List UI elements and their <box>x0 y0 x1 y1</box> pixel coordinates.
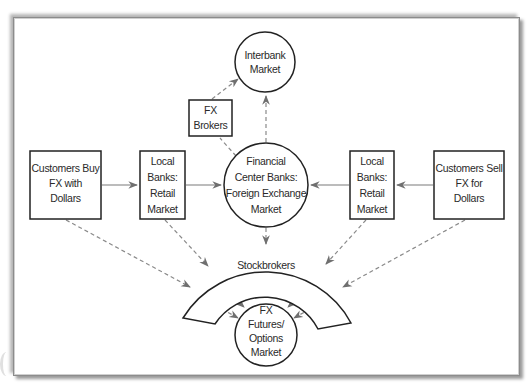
customers-buy-label-1: Customers Buy <box>32 162 101 174</box>
fx-brokers-label-1: FX <box>204 104 217 116</box>
local-banks-right-label-1: Local <box>360 155 384 167</box>
fx-brokers-label-2: Brokers <box>193 119 227 131</box>
customers-sell-label-1: Customers Sell <box>436 162 503 174</box>
arrow-customers-buy-to-stockbrokers <box>66 220 190 287</box>
local-banks-right-label-4: Market <box>357 203 388 215</box>
node-fx-brokers: FX Brokers <box>189 100 232 136</box>
interbank-label-1: Interbank <box>244 49 286 61</box>
financial-center-label-1: Financial <box>246 155 285 167</box>
fx-futures-label-3: Options <box>249 332 283 344</box>
arrow-local-banks-right-to-stockbrokers <box>326 220 366 264</box>
customers-sell-label-2: FX for <box>456 177 484 189</box>
financial-center-label-3: Foreign Exchange <box>226 187 307 199</box>
local-banks-right-label-3: Retail <box>359 187 384 199</box>
node-local-banks-right: Local Banks: Retail Market <box>350 151 394 219</box>
financial-center-label-4: Market <box>251 203 282 215</box>
local-banks-right-label-2: Banks: <box>357 171 387 183</box>
interbank-circle <box>235 32 295 92</box>
local-banks-left-label-2: Banks: <box>147 171 177 183</box>
local-banks-left-label-1: Local <box>151 155 175 167</box>
interbank-label-2: Market <box>250 63 281 75</box>
customers-buy-label-2: FX with <box>49 177 82 189</box>
fx-futures-label-1: FX <box>260 304 273 316</box>
node-interbank-market: Interbank Market <box>235 32 295 92</box>
line-financial-center-to-fx-brokers <box>220 138 236 156</box>
node-financial-center: Financial Center Banks: Foreign Exchange… <box>224 143 308 227</box>
arrow-fx-brokers-to-interbank <box>212 79 238 99</box>
financial-center-label-2: Center Banks: <box>235 171 298 183</box>
node-local-banks-left: Local Banks: Retail Market <box>140 151 185 219</box>
fx-futures-label-4: Market <box>251 346 282 358</box>
customers-buy-label-3: Dollars <box>50 192 81 204</box>
arrow-customers-sell-to-stockbrokers <box>343 220 465 287</box>
node-fx-futures-options: FX Futures/ Options Market <box>235 304 297 366</box>
stockbrokers-label: Stockbrokers <box>237 259 295 271</box>
customers-sell-label-3: Dollars <box>454 192 485 204</box>
node-customers-buy: Customers Buy FX with Dollars <box>30 151 101 219</box>
fx-futures-label-2: Futures/ <box>248 318 284 330</box>
local-banks-left-label-3: Retail <box>150 187 175 199</box>
local-banks-left-label-4: Market <box>147 203 178 215</box>
node-customers-sell: Customers Sell FX for Dollars <box>434 151 504 219</box>
arrow-local-banks-left-to-stockbrokers <box>165 220 208 266</box>
fx-market-diagram: Interbank Market FX Brokers Customers Bu… <box>0 0 532 389</box>
